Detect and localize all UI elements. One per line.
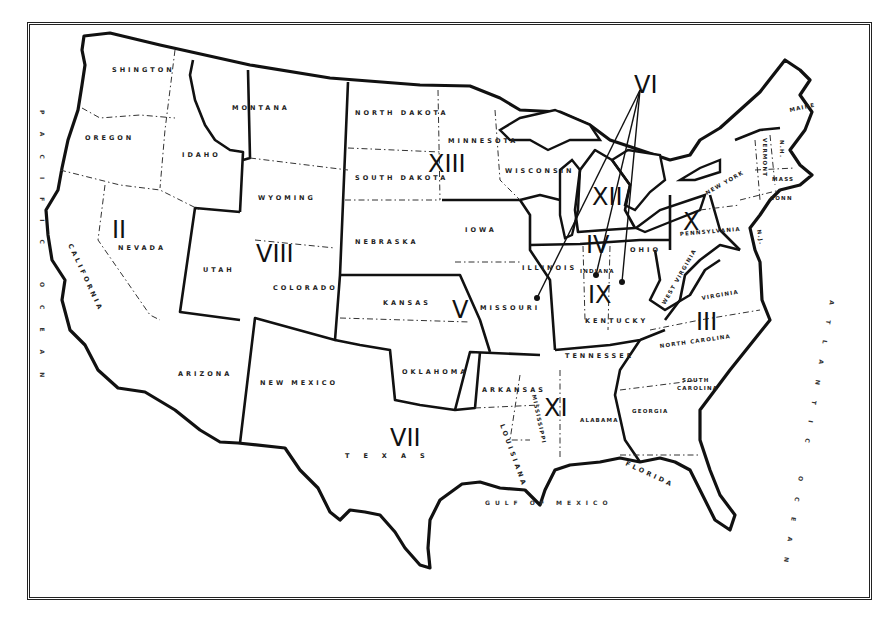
state-label-south-carolina-2: CAROLINA (677, 385, 718, 391)
state-label-new-mexico: NEW MEXICO (260, 379, 338, 387)
state-label-nevada: NEVADA (118, 244, 166, 252)
state-label-massachusetts: MASS (772, 176, 794, 182)
region-label-ix: IX (588, 281, 612, 309)
region-label-xi: XI (544, 394, 568, 422)
water-label-gulf: GULF OF MEXICO (485, 499, 613, 506)
state-label-south-dakota: SOUTH DAKOTA (355, 174, 448, 182)
state-label-connecticut: CONN (770, 195, 793, 201)
state-label-colorado: COLORADO (273, 284, 338, 292)
region-label-v: V (452, 296, 469, 324)
state-label-montana: MONTANA (232, 104, 290, 112)
state-label-iowa: IOWA (465, 226, 497, 234)
state-label-arkansas: ARKANSAS (482, 386, 546, 394)
state-label-arizona: ARIZONA (178, 370, 232, 378)
region-label-iii: III (696, 308, 717, 336)
state-label-missouri: MISSOURI (480, 304, 540, 312)
us-regions-map: II III IV V VI VII VIII IX X XI XII XIII… (0, 0, 893, 620)
state-label-south-carolina-1: SOUTH (682, 377, 709, 383)
region-label-vi: VI (634, 71, 658, 99)
state-label-idaho: IDAHO (182, 151, 221, 159)
state-label-georgia: GEORGIA (632, 408, 668, 414)
state-label-oregon: OREGON (85, 134, 134, 142)
region-label-xii: XII (592, 183, 623, 211)
state-label-new-hampshire: N.H. (779, 140, 785, 158)
state-label-tennessee: TENNESSEE (565, 352, 634, 360)
state-label-indiana: INDIANA (580, 268, 615, 274)
state-label-wyoming: WYOMING (258, 194, 316, 202)
state-label-washington: SHINGTON (112, 66, 175, 74)
state-label-texas: TEXAS (345, 452, 439, 460)
region-label-viii: VIII (256, 240, 294, 268)
state-label-minnesota: MINNESOTA (448, 137, 518, 145)
state-label-north-dakota: NORTH DAKOTA (355, 109, 448, 117)
state-label-nebraska: NEBRASKA (355, 238, 419, 246)
state-label-vermont: VERMONT (762, 138, 768, 177)
water-label-pacific: PACIFIC OCEAN (39, 110, 46, 395)
state-label-utah: UTAH (203, 266, 235, 274)
state-label-illinois: ILLINOIS (522, 264, 577, 272)
region-label-vii: VII (390, 424, 421, 452)
region-label-iv: IV (586, 231, 610, 259)
state-label-new-jersey: N.J. (755, 229, 765, 246)
state-label-kentucky: KENTUCKY (585, 317, 648, 325)
region-label-ii: II (112, 216, 126, 244)
water-label-atlantic: ATLANTIC OCEAN (780, 300, 836, 579)
state-label-wisconsin: WISCONSIN (505, 167, 575, 175)
state-label-kansas: KANSAS (383, 299, 431, 307)
state-label-oklahoma: OKLAHOMA (402, 368, 468, 376)
state-label-florida: FLORIDA (624, 460, 675, 490)
state-label-alabama: ALABAMA (580, 417, 619, 423)
state-label-ohio: OHIO (630, 246, 661, 254)
